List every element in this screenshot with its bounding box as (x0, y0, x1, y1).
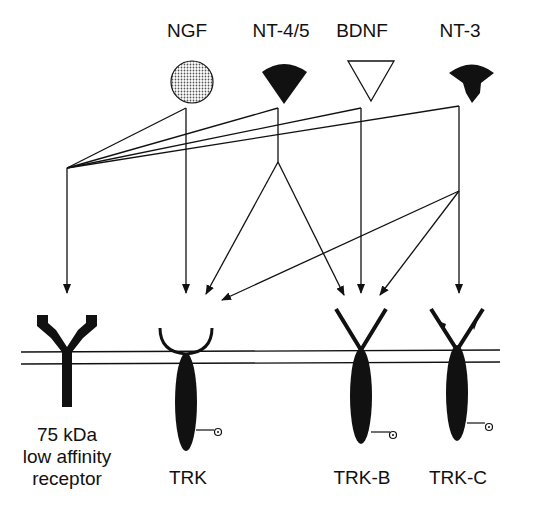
trk-receptor-cup-icon (160, 328, 212, 354)
receptor-label-trk: TRK (160, 467, 216, 489)
nt45-filled-fan-icon (262, 64, 307, 104)
ngf-dotted-circle-icon (171, 61, 213, 103)
receptor-label-p75-line1: 75 kDa (10, 424, 124, 446)
nt3-filled-bell-icon (449, 65, 494, 104)
bdnf-open-triangle-icon (348, 61, 394, 101)
trkb-receptor-arms-icon (336, 309, 386, 350)
membrane-outer-line (21, 350, 500, 352)
receptor-label-p75-line2: low affinity (10, 446, 124, 468)
trkc-receptor-arms-icon (431, 309, 483, 350)
receptor-label-trkc: TRK-C (424, 467, 492, 489)
receptor-label-p75-line3: receptor (10, 468, 124, 490)
trkb-receptor-body-icon (350, 348, 372, 444)
membrane-inner-line (21, 362, 500, 364)
trk-receptor-body-icon (175, 353, 197, 451)
receptor-label-p75: 75 kDa low affinity receptor (10, 424, 124, 490)
trkc-receptor-body-icon (446, 345, 468, 441)
receptor-label-trkb: TRK-B (328, 467, 396, 489)
p75-receptor-icon (37, 315, 97, 407)
